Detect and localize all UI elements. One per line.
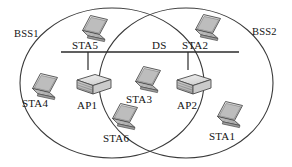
station-sta2 xyxy=(196,15,221,41)
sta2-label: STA2 xyxy=(182,40,208,51)
station-sta4 xyxy=(33,74,58,100)
ap2-label: AP2 xyxy=(177,100,197,111)
station-sta6 xyxy=(113,104,138,130)
ds-label: DS xyxy=(152,40,166,51)
bss1-label: BSS1 xyxy=(14,28,39,39)
station-sta5 xyxy=(83,16,108,42)
sta3-label: STA3 xyxy=(126,94,152,105)
sta1-label: STA1 xyxy=(209,131,235,142)
network-topology-diagram xyxy=(0,0,292,167)
sta5-label: STA5 xyxy=(72,40,98,51)
ap1-label: AP1 xyxy=(77,100,97,111)
bss2-label: BSS2 xyxy=(252,26,277,37)
access-point-ap1 xyxy=(77,75,111,95)
sta4-label: STA4 xyxy=(22,98,48,109)
station-sta3 xyxy=(136,67,161,93)
access-point-ap2 xyxy=(177,75,211,95)
sta6-label: STA6 xyxy=(103,133,129,144)
station-sta1 xyxy=(218,102,243,128)
